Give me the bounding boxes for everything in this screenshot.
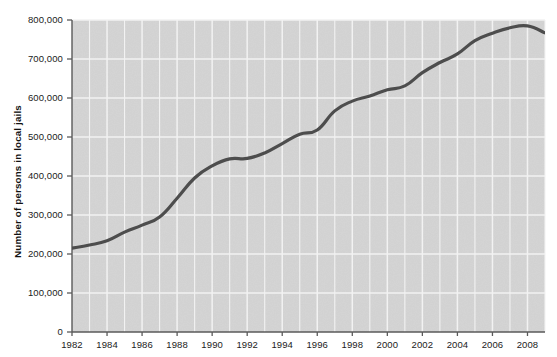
y-axis-tick-label: 800,000 — [0, 14, 63, 25]
y-axis-tick-label: 300,000 — [0, 209, 63, 220]
y-axis-tick-label: 700,000 — [0, 53, 63, 64]
x-axis-tick-label: 2008 — [502, 339, 552, 350]
chart-plot-svg — [0, 0, 557, 357]
y-axis-tick-label: 500,000 — [0, 131, 63, 142]
y-axis-ticks — [67, 20, 72, 332]
chart-figure: 0100,000200,000300,000400,000500,000600,… — [0, 0, 557, 357]
y-axis-title: Number of persons in local jails — [12, 102, 23, 262]
y-axis-tick-label: 100,000 — [0, 287, 63, 298]
y-axis-tick-label: 400,000 — [0, 170, 63, 181]
y-axis-tick-label: 600,000 — [0, 92, 63, 103]
y-axis-tick-label: 0 — [0, 326, 63, 337]
y-axis-tick-label: 200,000 — [0, 248, 63, 259]
